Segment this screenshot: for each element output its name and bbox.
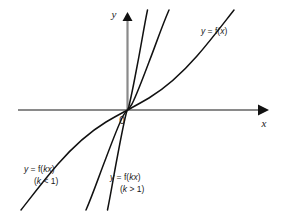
plot-canvas: y x 0 y = f(x) y = f(kx) (k < 1) y = f(k… — [0, 0, 281, 213]
annotation-stretch-eq: = f( — [28, 164, 43, 174]
annotation-base-close: ) — [224, 26, 227, 36]
annotation-k-less-than-1: y = f(kx) (k < 1) — [23, 164, 59, 186]
y-axis-label: y — [111, 8, 117, 20]
annotation-compress-rel: > 1) — [127, 184, 144, 194]
function-scaling-figure: y x 0 y = f(x) y = f(kx) (k < 1) y = f(k… — [0, 0, 281, 213]
origin-label: 0 — [119, 115, 125, 126]
x-axis-arrowhead — [258, 105, 269, 116]
annotation-compress-eq: = f( — [114, 172, 129, 182]
svg-text:(k > 1): (k > 1) — [120, 184, 145, 194]
annotation-base: y = f(x) — [200, 26, 227, 36]
annotation-k-greater-than-1: y = f(kx) (k > 1) — [109, 172, 145, 194]
annotation-stretch-close: ) — [52, 164, 55, 174]
annotation-compress-close: ) — [138, 172, 141, 182]
svg-text:y = f(x): y = f(x) — [200, 26, 227, 36]
svg-text:y = f(kx): y = f(kx) — [23, 164, 55, 174]
x-axis-label: x — [261, 117, 267, 129]
svg-text:y = f(kx): y = f(kx) — [109, 172, 141, 182]
y-axis-arrowhead — [123, 12, 133, 21]
annotation-stretch-rel: < 1) — [41, 176, 58, 186]
svg-text:(k < 1): (k < 1) — [34, 176, 59, 186]
annotation-base-eq: = f( — [205, 26, 220, 36]
